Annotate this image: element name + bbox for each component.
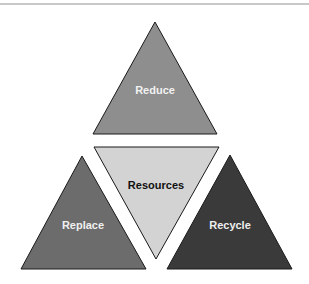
replace-label: Replace [62, 219, 104, 231]
recycle-label: Recycle [209, 219, 251, 231]
reduce-label: Reduce [135, 84, 175, 96]
resources-label: Resources [128, 179, 184, 191]
reduce-triangle: Reduce [93, 22, 217, 134]
resource-triangle-diagram: Reduce Resources Replace Recycle [0, 0, 309, 284]
